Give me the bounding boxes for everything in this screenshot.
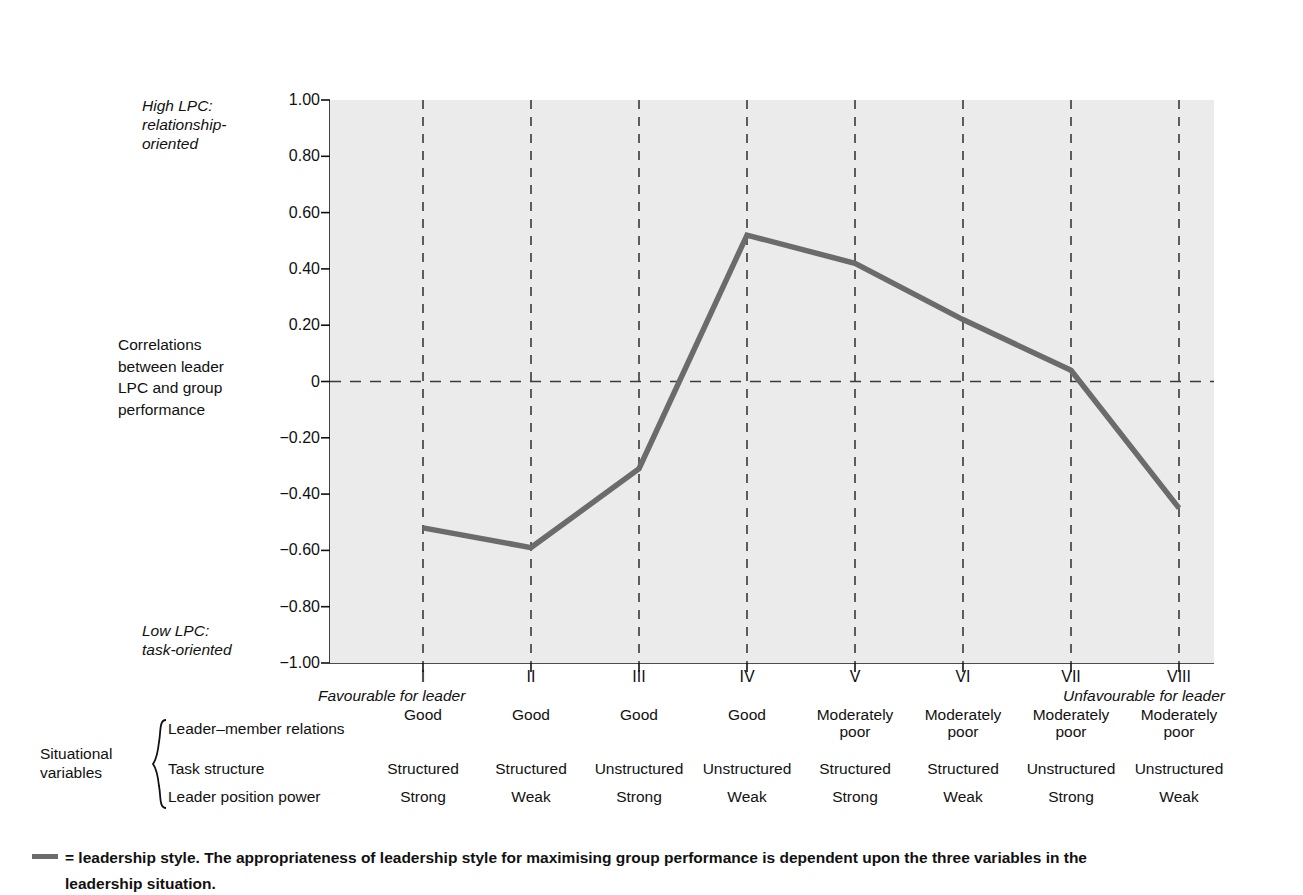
x-tick-label: V	[850, 668, 861, 686]
situational-cell: Strong	[1048, 788, 1094, 805]
situational-cell: Unstructured	[595, 760, 684, 777]
situational-cell: Strong	[400, 788, 446, 805]
x-tick-label: VI	[955, 668, 970, 686]
unfavourable-for-leader-note: Unfavourable for leader	[1063, 687, 1225, 705]
x-tick-label: IV	[739, 668, 754, 686]
situational-row-label: Leader–member relations	[168, 720, 345, 738]
situational-cell: Good	[404, 706, 442, 723]
x-tick-label: VII	[1061, 668, 1081, 686]
y-axis-title: Correlations between leader LPC and grou…	[118, 334, 224, 420]
situational-cell: Weak	[943, 788, 982, 805]
situational-row-label: Task structure	[168, 760, 264, 778]
figure-caption: = leadership style. The appropriateness …	[32, 845, 1282, 895]
situational-cell: Moderately poor	[817, 706, 894, 740]
situational-cell: Moderately poor	[1141, 706, 1218, 740]
x-tick-label: I	[421, 668, 425, 686]
situational-cell: Strong	[616, 788, 662, 805]
situational-row-label: Leader position power	[168, 788, 321, 806]
situational-cell: Structured	[927, 760, 999, 777]
favourable-for-leader-note: Favourable for leader	[318, 687, 465, 705]
situational-cell: Strong	[832, 788, 878, 805]
situational-cell: Weak	[727, 788, 766, 805]
situational-cell: Moderately poor	[1033, 706, 1110, 740]
situational-cell: Good	[620, 706, 658, 723]
x-tick-label: VIII	[1167, 668, 1191, 686]
caption-line-1: = leadership style. The appropriateness …	[65, 849, 1087, 866]
legend-line-swatch	[32, 854, 58, 859]
situational-cell: Structured	[387, 760, 459, 777]
situational-cell: Unstructured	[1135, 760, 1224, 777]
plot-svg	[330, 100, 1214, 663]
caption-line-2: leadership situation.	[65, 871, 1282, 895]
fiedler-contingency-chart-figure: High LPC: relationship- oriented Correla…	[0, 0, 1303, 895]
situational-cell: Unstructured	[1027, 760, 1116, 777]
situational-cell: Good	[728, 706, 766, 723]
situational-variables-table: Situational variables Leader–member rela…	[40, 716, 1270, 812]
situational-cell: Weak	[511, 788, 550, 805]
leadership-style-line	[423, 235, 1179, 547]
plot-area	[330, 100, 1214, 663]
y-axis-low-lpc-label: Low LPC: task-oriented	[142, 621, 232, 659]
x-tick-label: II	[527, 668, 536, 686]
situational-cell: Unstructured	[703, 760, 792, 777]
y-axis-high-lpc-label: High LPC: relationship- oriented	[142, 96, 226, 153]
situational-cell: Weak	[1159, 788, 1198, 805]
situational-cell: Structured	[495, 760, 567, 777]
situational-cell: Moderately poor	[925, 706, 1002, 740]
situational-cell: Structured	[819, 760, 891, 777]
curly-brace-icon	[152, 718, 168, 810]
x-tick-label: III	[632, 668, 645, 686]
situational-variables-title: Situational variables	[40, 744, 112, 782]
situational-cell: Good	[512, 706, 550, 723]
